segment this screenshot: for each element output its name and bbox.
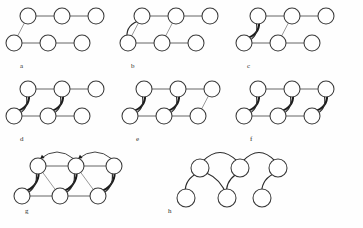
graph-node bbox=[40, 108, 56, 124]
panel-c bbox=[236, 8, 334, 51]
graph-node bbox=[88, 81, 104, 97]
graph-node bbox=[54, 81, 70, 97]
graph-node bbox=[269, 159, 287, 177]
graph-node bbox=[170, 81, 186, 97]
graph-node bbox=[136, 81, 152, 97]
graph-node bbox=[68, 158, 84, 174]
graph-node bbox=[270, 35, 286, 51]
graph-node bbox=[218, 189, 236, 207]
graph-figure-svg: abcdefgh bbox=[0, 0, 363, 228]
graph-node bbox=[270, 108, 286, 124]
graph-node bbox=[304, 35, 320, 51]
graph-node bbox=[318, 81, 334, 97]
graph-node bbox=[90, 188, 106, 204]
graph-node bbox=[236, 35, 252, 51]
graph-node bbox=[168, 8, 184, 24]
panel-label-c: c bbox=[247, 62, 250, 70]
graph-node bbox=[188, 35, 204, 51]
panel-e bbox=[122, 81, 220, 124]
graph-node bbox=[14, 188, 30, 204]
graph-node bbox=[284, 8, 300, 24]
graph-node bbox=[204, 81, 220, 97]
panel-label-b: b bbox=[131, 62, 135, 70]
panel-label-g: g bbox=[25, 207, 29, 215]
panel-d bbox=[6, 81, 104, 124]
graph-node bbox=[120, 35, 136, 51]
panel-g bbox=[14, 152, 122, 204]
panel-a bbox=[6, 8, 104, 51]
panel-label-f: f bbox=[250, 135, 253, 143]
panel-b bbox=[120, 8, 218, 51]
graph-node bbox=[250, 81, 266, 97]
graph-node bbox=[6, 35, 22, 51]
graph-node bbox=[20, 8, 36, 24]
graph-node bbox=[190, 108, 206, 124]
panel-h bbox=[177, 153, 287, 208]
graph-node bbox=[6, 108, 22, 124]
graph-edge-top-arc bbox=[243, 153, 275, 162]
graph-node bbox=[177, 189, 195, 207]
graph-node bbox=[54, 8, 70, 24]
graph-node bbox=[88, 8, 104, 24]
graph-node bbox=[134, 8, 150, 24]
graph-node bbox=[52, 188, 68, 204]
graph-node bbox=[231, 159, 249, 177]
graph-edge-top-arc bbox=[40, 152, 74, 159]
graph-node bbox=[253, 189, 271, 207]
graph-node bbox=[284, 81, 300, 97]
graph-edge-top-arc bbox=[78, 152, 112, 159]
graph-node bbox=[202, 8, 218, 24]
panel-label-d: d bbox=[20, 135, 24, 143]
graph-node bbox=[236, 108, 252, 124]
panel-label-a: a bbox=[20, 62, 24, 70]
graph-node bbox=[74, 108, 90, 124]
graph-node bbox=[122, 108, 138, 124]
panel-label-h: h bbox=[168, 207, 172, 215]
panel-label-e: e bbox=[136, 135, 139, 143]
graph-node bbox=[40, 35, 56, 51]
graph-edge-top-arc bbox=[203, 153, 237, 162]
graph-node bbox=[30, 158, 46, 174]
figure-root: abcdefgh bbox=[0, 0, 363, 228]
panels-layer bbox=[6, 8, 334, 207]
graph-node bbox=[154, 35, 170, 51]
graph-node bbox=[156, 108, 172, 124]
graph-node bbox=[106, 158, 122, 174]
graph-node bbox=[250, 8, 266, 24]
graph-node bbox=[318, 8, 334, 24]
graph-node bbox=[191, 159, 209, 177]
graph-node bbox=[304, 108, 320, 124]
graph-node bbox=[20, 81, 36, 97]
panel-f bbox=[236, 81, 334, 124]
graph-node bbox=[74, 35, 90, 51]
